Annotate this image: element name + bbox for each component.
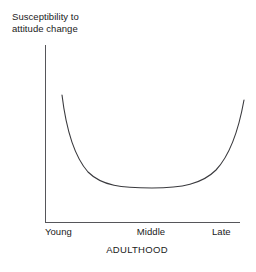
x-axis-title: ADULTHOOD [90,244,184,255]
x-tick-label-young: Young [45,226,72,237]
susceptibility-curve [62,95,244,188]
x-tick-label-late: Late [212,226,231,237]
chart-figure: Susceptibility to attitude change Young … [0,0,256,272]
x-tick-label-middle: Middle [123,226,179,237]
